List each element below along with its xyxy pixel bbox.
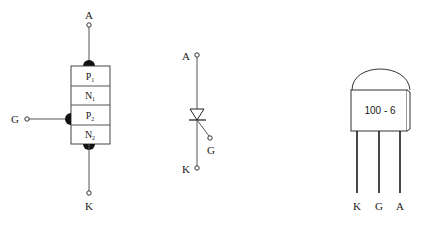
structure-gate-contact [65,113,71,125]
structure-cathode-label: K [85,200,93,212]
structure-gate-label: G [11,113,19,125]
package-dome [352,69,410,90]
to92-package-drawing: 100 - 6 K G A [351,69,410,212]
symbol-cathode-terminal [195,166,199,170]
structure-cathode-terminal [87,191,91,195]
package-pin-label-k: K [353,200,361,212]
structure-anode-terminal [87,23,91,27]
diode-triangle-icon [190,109,204,120]
structure-gate-terminal [25,117,29,121]
symbol-cathode-label: K [182,163,190,175]
scr-schematic-symbol: A G K [182,50,215,175]
structure-anode-contact [83,60,95,66]
symbol-gate-label: G [207,144,215,156]
structure-anode-label: A [85,9,93,21]
package-side-edge [407,90,410,131]
pnpn-structure-diagram: A P1 N1 P2 N2 G K [11,9,110,212]
package-pin-label-a: A [396,200,404,212]
symbol-anode-terminal [195,53,199,57]
package-pin-label-g: G [375,200,383,212]
symbol-gate-lead [197,120,209,136]
package-marking: 100 - 6 [364,105,396,116]
symbol-gate-terminal [208,136,212,140]
symbol-anode-label: A [182,50,190,62]
thyristor-figure: A P1 N1 P2 N2 G K A G [0,0,426,227]
